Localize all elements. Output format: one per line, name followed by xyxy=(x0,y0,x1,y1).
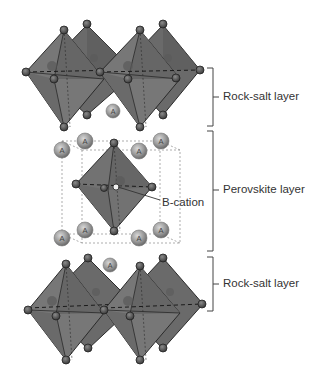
perovskite-unit-cell: A A A A A A A A xyxy=(54,133,180,246)
a-cation-atom: A xyxy=(106,104,120,118)
svg-text:A: A xyxy=(136,234,141,243)
bottom-rock-salt-bracket xyxy=(207,257,213,311)
top-rock-salt-octahedra: A xyxy=(22,20,204,131)
a-cation-atom: A xyxy=(103,258,117,272)
svg-text:A: A xyxy=(59,146,64,155)
svg-text:A: A xyxy=(136,147,141,156)
svg-text:A: A xyxy=(158,226,163,235)
svg-text:A: A xyxy=(59,234,64,243)
layer-brackets xyxy=(207,68,219,311)
svg-text:A: A xyxy=(158,137,163,146)
bottom-rock-salt-octahedra: A xyxy=(24,254,206,364)
svg-text:A: A xyxy=(108,262,113,269)
svg-text:A: A xyxy=(111,108,116,115)
label-bottom-rock-salt-layer: Rock-salt layer xyxy=(223,277,299,289)
top-rock-salt-bracket xyxy=(207,68,213,126)
label-top-rock-salt-layer: Rock-salt layer xyxy=(223,90,299,102)
svg-text:A: A xyxy=(82,226,87,235)
svg-text:A: A xyxy=(82,137,87,146)
label-perovskite-layer: Perovskite layer xyxy=(223,183,305,195)
label-b-cation: B-cation xyxy=(162,196,204,208)
perovskite-bracket xyxy=(207,131,213,251)
